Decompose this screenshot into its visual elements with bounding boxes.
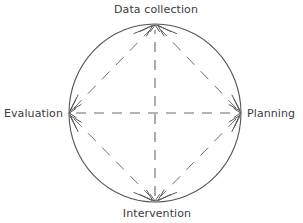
node-label-planning: Planning xyxy=(247,107,295,120)
node-label-evaluation: Evaluation xyxy=(4,107,63,120)
diagonal-evaluation-to-intervention-line xyxy=(74,119,150,196)
diagram-container: Data collection Planning Intervention Ev… xyxy=(0,0,303,223)
diagonal-planning-to-intervention-line xyxy=(161,119,236,196)
cycle-diagram-canvas: Data collection Planning Intervention Ev… xyxy=(0,0,303,223)
arrowheads-right-group xyxy=(229,95,241,132)
diagonal-evaluation-to-data-collection-line xyxy=(74,30,150,108)
diagonal-planning-to-data-collection-line xyxy=(161,30,236,108)
node-label-data-collection: Data collection xyxy=(114,3,198,16)
node-label-intervention: Intervention xyxy=(123,207,191,220)
